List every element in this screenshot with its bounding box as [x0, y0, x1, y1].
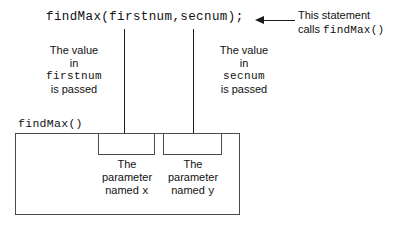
parameter-box-y [163, 133, 222, 155]
callout-line-2-prefix: calls [298, 23, 323, 35]
callout-line-1: This statement [298, 9, 384, 23]
callout-arrow-head-icon [255, 16, 264, 24]
argument-line-4: is passed [196, 83, 292, 96]
argument-description-secnum: The value in secnum is passed [196, 44, 292, 96]
parameter-line-3-prefix: named [171, 184, 208, 196]
argument-line-2: in [196, 57, 292, 70]
argument-name-secnum: secnum [196, 70, 292, 83]
passing-arrow-line-firstnum [124, 29, 125, 140]
argument-description-firstnum: The value in firstnum is passed [26, 44, 122, 96]
passing-arrow-line-secnum [193, 29, 194, 140]
parameter-box-x [98, 133, 155, 155]
argument-name-firstnum: firstnum [26, 70, 122, 83]
callout-arrow-line [264, 20, 295, 21]
callout-line-2: calls findMax() [298, 23, 384, 38]
function-call-parameter-passing-diagram: findMax(firstnum,secnum); This statement… [0, 0, 396, 249]
function-name-label: findMax() [18, 117, 83, 130]
argument-line-1: The value [196, 44, 292, 57]
callout-function-name: findMax() [323, 24, 384, 36]
argument-line-1: The value [26, 44, 122, 57]
function-call-statement: findMax(firstnum,secnum); [46, 10, 244, 24]
parameter-description-y: The parameter named y [152, 158, 234, 198]
argument-line-2: in [26, 57, 122, 70]
argument-line-4: is passed [26, 83, 122, 96]
parameter-line-3: named y [152, 184, 234, 198]
parameter-name-x: x [142, 185, 149, 197]
parameter-line-1: The [152, 158, 234, 171]
parameter-line-2: parameter [152, 171, 234, 184]
parameter-name-y: y [208, 185, 215, 197]
parameter-line-3-prefix: named [105, 184, 142, 196]
callout-text: This statement calls findMax() [298, 9, 384, 37]
